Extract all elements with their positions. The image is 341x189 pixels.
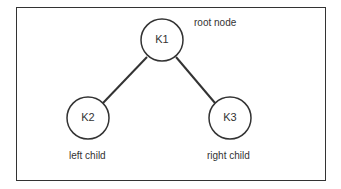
right-child-annotation: right child bbox=[207, 150, 250, 161]
node-k3-label: K3 bbox=[210, 111, 250, 123]
edge-k1-k3 bbox=[176, 57, 215, 103]
tree-graphic bbox=[0, 0, 341, 189]
root-node-annotation: root node bbox=[194, 17, 236, 28]
node-k2-label: K2 bbox=[68, 111, 108, 123]
node-k1-label: K1 bbox=[142, 33, 182, 45]
edge-k1-k2 bbox=[103, 57, 147, 103]
left-child-annotation: left child bbox=[69, 150, 106, 161]
